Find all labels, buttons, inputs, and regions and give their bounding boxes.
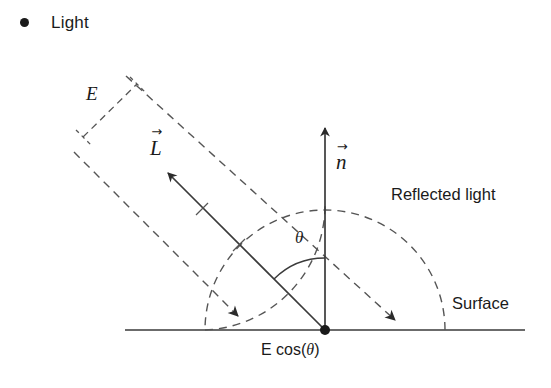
bullet-dot-icon [20,18,29,27]
vector-accent-icon: → [337,140,348,153]
arc-cross-tick-outer [196,203,208,215]
ecos-suffix: ) [314,341,319,358]
vector-accent-icon: → [151,125,162,138]
reflected-light-label: Reflected light [391,186,496,203]
beam-width-tick-start [76,130,92,146]
irradiance-label: E [86,84,98,103]
ecos-prefix: E cos( [261,341,306,358]
beam-edge-upper [74,152,238,316]
angle-label: θ [295,229,303,246]
angle-arc [274,258,325,279]
origin-point [320,325,330,335]
legend: Light [20,14,89,31]
diagram-figure: Light Reflected light Surface E cos(θ) E… [0,0,551,388]
legend-label: Light [51,14,89,31]
light-vector-label: →L [150,138,162,159]
beam-width-tick-end [130,77,146,93]
normal-vector-label: →n [336,152,347,173]
light-vector-letter: L [150,136,162,160]
projected-irradiance-label: E cos(θ) [261,342,320,358]
beam-edge-lower [126,76,395,320]
light-vector [168,173,325,330]
surface-label: Surface [452,295,509,312]
